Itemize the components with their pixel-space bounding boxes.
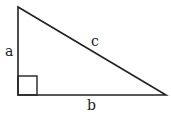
right-angle-marker [18, 76, 37, 95]
triangle [18, 7, 166, 95]
side-c-label: c [91, 33, 99, 49]
right-triangle-diagram: a c b [0, 0, 171, 117]
side-a-label: a [5, 43, 13, 59]
side-b-label: b [87, 97, 96, 113]
